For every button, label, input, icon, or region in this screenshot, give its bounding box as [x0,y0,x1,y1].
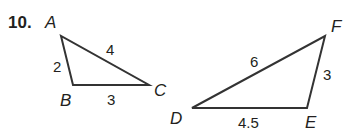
vertex-label-f: F [331,17,343,36]
side-length-ac: 4 [106,41,114,58]
side-length-bc: 3 [107,91,115,108]
problem-number: 10. [8,13,32,32]
side-length-de: 4.5 [238,114,259,131]
vertex-label-a: A [44,13,56,32]
triangle-abc: A B C 2 3 4 [44,13,167,110]
vertex-label-c: C [154,81,167,100]
side-length-df: 6 [250,53,258,70]
side-length-ef: 3 [323,66,331,83]
triangle-abc-outline [61,36,149,85]
vertex-label-b: B [60,91,71,110]
triangle-def: D E F 4.5 3 6 [170,17,343,132]
vertex-label-e: E [305,113,317,132]
vertex-label-d: D [170,109,182,128]
diagram-canvas: 10. A B C 2 3 4 D E F 4.5 3 6 [0,0,349,133]
side-length-ab: 2 [53,58,61,75]
triangle-def-outline [192,36,325,108]
